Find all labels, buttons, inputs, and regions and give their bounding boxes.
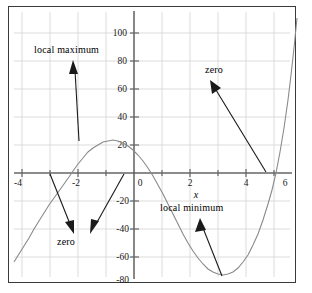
x-tick-label-2: 2 xyxy=(188,178,193,188)
x-tick-label-6: 6 xyxy=(283,178,288,188)
arrow-zero-left-root xyxy=(50,174,74,234)
y-tick-label-60: 60 xyxy=(118,84,128,94)
x-tick-label--4: -4 xyxy=(14,178,22,188)
y-tick-label-40: 40 xyxy=(118,112,128,122)
annotation-local-maximum: local maximum xyxy=(34,44,99,55)
y-tick-label--80: -80 xyxy=(116,275,129,285)
x-tick-label-4: 4 xyxy=(244,178,249,188)
annotation-zero-right: zero xyxy=(205,64,223,75)
y-tick-label-80: 80 xyxy=(118,56,128,66)
chart-figure: -4 -2 0 2 4 6 100 80 60 40 20 -20 -40 -6… xyxy=(0,0,312,293)
x-tick-label-0: 0 xyxy=(138,178,143,188)
x-tick-label--2: -2 xyxy=(72,178,80,188)
y-tick-label-100: 100 xyxy=(113,28,128,38)
annotation-zero-left: zero xyxy=(57,236,75,247)
annotation-local-minimum: local minimum xyxy=(160,202,223,213)
x-axis-label: x xyxy=(193,189,199,200)
y-tick-label--60: -60 xyxy=(116,252,129,262)
horizontal-gridlines xyxy=(14,33,290,257)
y-tick-label--20: -20 xyxy=(116,196,129,206)
y-tick-label--40: -40 xyxy=(116,224,129,234)
